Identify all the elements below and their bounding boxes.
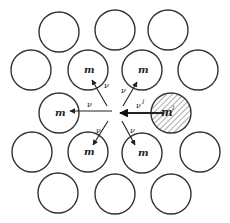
- atom-label-m: m: [138, 147, 149, 158]
- atom: [95, 10, 135, 50]
- atom: [39, 12, 79, 52]
- atom-label-m: m: [84, 146, 95, 157]
- velocity-label: ν: [136, 101, 141, 110]
- atom-m: m: [122, 133, 162, 173]
- atom-m: m: [122, 50, 162, 90]
- atom-circles: mmmmImm: [11, 10, 220, 214]
- atom-label-m: m: [55, 107, 66, 118]
- atom-m: m: [68, 132, 108, 172]
- atom: [95, 174, 135, 214]
- arrow-v: ν: [92, 80, 109, 106]
- atom-label-m: m: [138, 64, 149, 75]
- velocity-label: ν: [130, 126, 135, 135]
- atom: [11, 50, 51, 90]
- atom: [12, 132, 52, 172]
- atom: [38, 173, 78, 213]
- velocity-label: ν: [96, 126, 101, 135]
- atom-label-m: m: [84, 64, 95, 75]
- velocity-label: ν: [104, 81, 109, 90]
- velocity-label-sup: I: [141, 98, 145, 105]
- atom: [180, 132, 220, 172]
- velocity-label: ν: [121, 86, 126, 95]
- atom: [151, 174, 191, 214]
- lattice-diagram: mmmmImm ννννννI: [0, 0, 230, 223]
- velocity-label: ν: [87, 100, 92, 109]
- atom-m: m: [68, 50, 108, 90]
- arrow-v: ν: [122, 121, 135, 145]
- atom: [148, 10, 188, 50]
- atom-m: m: [39, 93, 79, 133]
- atom: [178, 50, 218, 90]
- lattice-svg: mmmmImm ννννννI: [0, 0, 230, 223]
